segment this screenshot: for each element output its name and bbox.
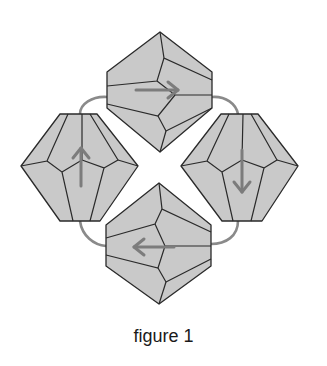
bead-top xyxy=(107,32,212,152)
bead-diagram xyxy=(0,0,327,366)
bead-right xyxy=(181,114,298,221)
bead-left xyxy=(21,114,138,221)
figure-caption: figure 1 xyxy=(0,326,327,347)
bead-bottom xyxy=(106,183,211,304)
